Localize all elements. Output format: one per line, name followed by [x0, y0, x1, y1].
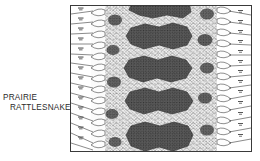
caption-line-primary: PRAIRIE [3, 93, 67, 103]
caption-line-secondary: RATTLESNAKE [3, 103, 67, 113]
snake-scale-artwork [71, 6, 251, 151]
illustration-plate: PRAIRIE RATTLESNAKE [0, 0, 260, 161]
species-caption: PRAIRIE RATTLESNAKE [3, 93, 67, 112]
illustration-canvas [71, 6, 251, 151]
illustration-panel [70, 5, 252, 152]
